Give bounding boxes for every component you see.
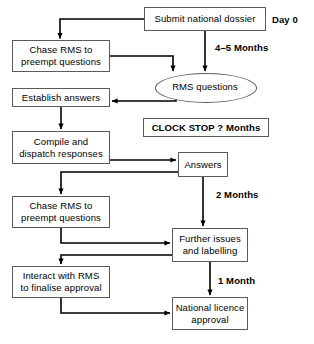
time-label-4-5-months: 4–5 Months xyxy=(215,42,268,53)
node-label: Further issues and labelling xyxy=(179,233,241,257)
node-clock-stop[interactable]: CLOCK STOP ? Months xyxy=(143,118,269,137)
node-national-licence-approval[interactable]: National licence approval xyxy=(172,297,248,330)
node-compile-and-dispatch-responses[interactable]: Compile and dispatch responses xyxy=(12,131,110,164)
edge-answers-to-chase2 xyxy=(61,172,178,194)
node-chase-rms-preempt-questions-2[interactable]: Chase RMS to preempt questions xyxy=(12,196,110,228)
time-label-day-0: Day 0 xyxy=(272,14,298,25)
node-label: Submit national dossier xyxy=(154,13,255,25)
time-label-1-month: 1 Month xyxy=(218,275,255,286)
node-label: National licence approval xyxy=(176,302,245,326)
node-label: Interact with RMS to finalise approval xyxy=(20,270,101,294)
node-establish-answers[interactable]: Establish answers xyxy=(12,88,110,107)
node-rms-questions[interactable]: RMS questions xyxy=(155,73,255,101)
edge-chase2-to-further-issues xyxy=(61,228,170,243)
node-answers[interactable]: Answers xyxy=(178,152,228,177)
edge-chase1-to-rms-questions xyxy=(110,56,173,71)
node-label: CLOCK STOP ? Months xyxy=(152,122,261,134)
edge-submit-to-chase1 xyxy=(60,19,144,39)
node-label: Answers xyxy=(184,159,221,171)
node-label: Establish answers xyxy=(22,92,100,104)
node-further-issues-and-labelling[interactable]: Further issues and labelling xyxy=(172,228,248,262)
node-chase-rms-preempt-questions-1[interactable]: Chase RMS to preempt questions xyxy=(12,40,110,72)
node-label: Chase RMS to preempt questions xyxy=(21,200,101,224)
time-label-2-months: 2 Months xyxy=(216,189,259,200)
flowchart-canvas: Submit national dossier Chase RMS to pre… xyxy=(0,0,314,344)
edge-interact-to-national-licence xyxy=(61,298,170,313)
node-label: RMS questions xyxy=(172,81,238,93)
node-interact-with-rms-to-finalise-approval[interactable]: Interact with RMS to finalise approval xyxy=(12,266,110,298)
edge-further-issues-to-interact xyxy=(61,255,172,264)
node-label: Chase RMS to preempt questions xyxy=(21,44,101,68)
node-label: Compile and dispatch responses xyxy=(19,136,103,160)
node-submit-national-dossier[interactable]: Submit national dossier xyxy=(144,7,266,31)
